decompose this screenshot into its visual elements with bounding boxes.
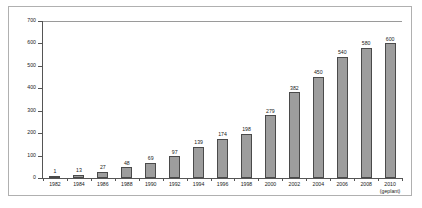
x-tick-label: 2006 [330, 181, 354, 188]
bar[interactable] [241, 134, 252, 178]
bar-slot: 600 [378, 21, 402, 178]
bar-slot: 97 [163, 21, 187, 178]
bar-value-label: 13 [76, 168, 82, 173]
x-tick-label-group: 1984 [67, 181, 91, 194]
bar[interactable] [265, 115, 276, 178]
y-tick-label: 600 [27, 41, 36, 46]
x-tick-sublabel: (geplant) [378, 188, 402, 195]
y-tick-label: 400 [27, 86, 36, 91]
x-tick-label: 1986 [91, 181, 115, 188]
x-tick-label: 1998 [235, 181, 259, 188]
x-tick-label: 2004 [306, 181, 330, 188]
y-tick-mark [38, 66, 42, 67]
x-tick-label-group: 1992 [163, 181, 187, 194]
y-tick-mark [38, 133, 42, 134]
y-tick-mark [38, 88, 42, 89]
x-tick-label-group: 2008 [354, 181, 378, 194]
x-tick-label: 2008 [354, 181, 378, 188]
bar-slot: 69 [139, 21, 163, 178]
bar-slot: 279 [258, 21, 282, 178]
bar-value-label: 580 [362, 41, 371, 46]
bar-slot: 450 [306, 21, 330, 178]
bar[interactable] [217, 139, 228, 178]
bar-slot: 48 [115, 21, 139, 178]
x-tick-label: 1982 [43, 181, 67, 188]
bar[interactable] [49, 176, 60, 178]
bar-value-label: 198 [242, 127, 251, 132]
bar-slot: 27 [91, 21, 115, 178]
bar-slot: 13 [67, 21, 91, 178]
x-tick-label-group: 1982 [43, 181, 67, 194]
x-tick-label-group: 2004 [306, 181, 330, 194]
y-tick-mark [38, 111, 42, 112]
bar[interactable] [145, 163, 156, 178]
x-tick-label-group: 1990 [139, 181, 163, 194]
x-tick-label: 1992 [163, 181, 187, 188]
chart-outer-frame: 0100200300400500600700 11327486997139174… [8, 6, 412, 196]
bar[interactable] [289, 92, 300, 178]
bar-value-label: 1 [54, 169, 57, 174]
x-tick-label: 1996 [211, 181, 235, 188]
bar[interactable] [121, 167, 132, 178]
x-axis-line [42, 178, 402, 179]
x-tick-label: 1990 [139, 181, 163, 188]
bar-slot: 174 [211, 21, 235, 178]
x-tick-label: 2000 [258, 181, 282, 188]
x-tick-label-group: 1988 [115, 181, 139, 194]
bar[interactable] [361, 48, 372, 178]
x-tick-label: 1984 [67, 181, 91, 188]
x-tick-label-group: 1994 [187, 181, 211, 194]
bar[interactable] [169, 156, 180, 178]
bar-slot: 580 [354, 21, 378, 178]
x-tick-label-group: 2010(geplant) [378, 181, 402, 194]
bar-slot: 382 [282, 21, 306, 178]
bar-value-label: 69 [148, 156, 154, 161]
plot-area: 0100200300400500600700 11327486997139174… [42, 21, 402, 179]
x-tick-label-group: 1986 [91, 181, 115, 194]
bar-value-label: 540 [338, 50, 347, 55]
y-tick-label: 500 [27, 63, 36, 68]
x-tick-label-group: 1998 [235, 181, 259, 194]
bar-value-label: 174 [218, 132, 227, 137]
x-tick-label-group: 1996 [211, 181, 235, 194]
y-tick-label: 300 [27, 108, 36, 113]
y-tick-label: 700 [27, 18, 36, 23]
bar-value-label: 600 [386, 37, 395, 42]
bar-value-label: 139 [194, 140, 203, 145]
bar[interactable] [193, 147, 204, 178]
x-tick-label: 1988 [115, 181, 139, 188]
bar[interactable] [385, 43, 396, 178]
x-tick-mark [402, 178, 403, 181]
bar-value-label: 279 [266, 109, 275, 114]
bar-slot: 540 [330, 21, 354, 178]
x-tick-label-group: 2002 [282, 181, 306, 194]
bar-value-label: 450 [314, 70, 323, 75]
x-tick-label-group: 2000 [258, 181, 282, 194]
bar-value-label: 27 [100, 165, 106, 170]
x-axis-labels: 1982198419861988199019921994199619982000… [43, 181, 402, 194]
y-tick-mark [38, 178, 42, 179]
bar[interactable] [73, 175, 84, 178]
bar[interactable] [313, 77, 324, 178]
bar-value-label: 48 [124, 161, 130, 166]
bar-slot: 139 [187, 21, 211, 178]
y-tick-mark [38, 156, 42, 157]
y-tick-label: 0 [33, 175, 36, 180]
bar-slot: 198 [235, 21, 259, 178]
x-tick-label: 1994 [187, 181, 211, 188]
y-tick-label: 200 [27, 131, 36, 136]
bar[interactable] [97, 172, 108, 178]
bar-value-label: 97 [172, 150, 178, 155]
bar-series: 11327486997139174198279382450540580600 [43, 21, 402, 178]
bar-value-label: 382 [290, 86, 299, 91]
x-tick-label: 2002 [282, 181, 306, 188]
x-tick-label-group: 2006 [330, 181, 354, 194]
y-tick-mark [38, 43, 42, 44]
y-tick-label: 100 [27, 153, 36, 158]
bar-slot: 1 [43, 21, 67, 178]
bar[interactable] [337, 57, 348, 178]
y-tick-mark [38, 21, 42, 22]
